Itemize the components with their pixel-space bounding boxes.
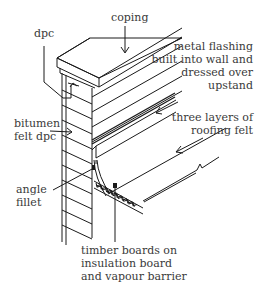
- coping-arrow: [121, 26, 129, 53]
- label-metal-flashing: metal flashing built into wall and dress…: [152, 40, 253, 92]
- label-bitumen-line1: bitumen: [14, 117, 60, 130]
- label-timber-boards: timber boards on insulation board and va…: [81, 244, 187, 283]
- label-angle-fillet-line2: fillet: [16, 196, 47, 209]
- diagram-canvas: coping dpc metal flashing built into wal…: [0, 0, 269, 291]
- label-three-layers-line2: roofing felt: [172, 124, 253, 137]
- felt-arrow: [176, 138, 203, 153]
- insulation-layer: [94, 181, 143, 214]
- label-bitumen-line2: felt dpc: [14, 130, 60, 143]
- label-timber-boards-line3: and vapour barrier: [81, 270, 187, 283]
- label-three-layers: three layers of roofing felt: [172, 111, 253, 137]
- label-angle-fillet: angle fillet: [16, 183, 47, 209]
- roof-surface: [94, 128, 226, 202]
- label-dpc: dpc: [34, 27, 54, 40]
- label-metal-flashing-line4: upstand: [152, 79, 253, 92]
- label-angle-fillet-line1: angle: [16, 183, 47, 196]
- label-metal-flashing-line2: built into wall and: [152, 53, 253, 66]
- label-three-layers-line1: three layers of: [172, 111, 253, 124]
- label-timber-boards-line1: timber boards on: [81, 244, 187, 257]
- label-coping: coping: [111, 11, 148, 24]
- label-bitumen: bitumen felt dpc: [14, 117, 60, 143]
- label-metal-flashing-line1: metal flashing: [152, 40, 253, 53]
- label-metal-flashing-line3: dressed over: [152, 66, 253, 79]
- label-timber-boards-line2: insulation board: [81, 257, 187, 270]
